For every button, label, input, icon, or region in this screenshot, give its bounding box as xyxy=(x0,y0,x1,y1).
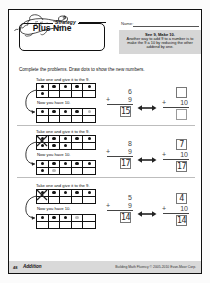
ten-frame-dot xyxy=(41,162,44,165)
ten-frame-cell[interactable] xyxy=(72,197,84,204)
left-second-addend: +9 xyxy=(105,202,135,210)
left-answer-box[interactable]: 15 xyxy=(120,106,131,117)
left-second-addend: +9 xyxy=(105,148,135,156)
ten-frame-cell[interactable] xyxy=(37,222,49,229)
ten-frame[interactable] xyxy=(36,160,96,175)
ten-frame-cell[interactable] xyxy=(60,91,72,98)
ten-frame-dot xyxy=(75,137,78,140)
ten-frame-dot xyxy=(52,144,55,147)
ten-frame-cell[interactable] xyxy=(83,222,95,229)
equation-bar xyxy=(163,159,189,160)
right-addend-value: 7 xyxy=(177,140,186,149)
ten-frame-dot xyxy=(64,216,67,219)
ten-frame-cell[interactable] xyxy=(49,143,61,150)
right-equation: +10 xyxy=(161,87,191,120)
ten-frame[interactable] xyxy=(36,214,96,229)
ten-frame-cell[interactable] xyxy=(49,222,61,229)
equation-bar xyxy=(163,213,189,214)
cross-out-mark xyxy=(36,189,48,201)
ten-frame-cell[interactable] xyxy=(83,168,95,175)
ten-frame-dot xyxy=(64,162,67,165)
left-equation: 6+915 xyxy=(105,88,135,117)
equation-bar xyxy=(107,104,133,105)
ten-frame-cell[interactable] xyxy=(72,222,84,229)
ten-frame-dot xyxy=(64,144,67,147)
left-equation: 8+917 xyxy=(105,140,135,169)
ten-frame-dot xyxy=(88,191,91,194)
ten-frame-dot xyxy=(52,169,55,172)
ten-frame-cell[interactable] xyxy=(83,116,95,123)
right-answer-box[interactable]: 17 xyxy=(176,161,187,172)
section-label: Addition xyxy=(23,264,42,269)
right-second-addend: +10 xyxy=(161,151,191,159)
plus-sign: + xyxy=(106,148,110,156)
ten-frame-cell[interactable] xyxy=(37,116,49,123)
ten-frame-cell[interactable] xyxy=(49,197,61,204)
page-number: 48 xyxy=(13,265,17,270)
ten-frame-dot xyxy=(41,85,44,88)
directions-text: Complete the problems. Draw dots to show… xyxy=(19,67,145,72)
ten-frame-cell[interactable] xyxy=(49,116,61,123)
left-answer-box[interactable]: 17 xyxy=(120,158,131,169)
ten-frame-cell[interactable] xyxy=(37,168,49,175)
right-equation: 4+1014 xyxy=(161,193,191,226)
equivalence-arrow-icon xyxy=(137,155,157,165)
ten-frame-cell[interactable] xyxy=(60,168,72,175)
left-equation: 5+914 xyxy=(105,194,135,223)
now-have-ten-label: Now you have 10. xyxy=(36,100,72,105)
equation-bar xyxy=(107,210,133,211)
take-one-label: Take one and give it to the 9. xyxy=(36,183,90,188)
row-divider xyxy=(17,177,195,178)
ten-frame-dot xyxy=(64,110,67,113)
right-answer-box[interactable]: 14 xyxy=(176,215,187,226)
ten-frame-cell[interactable] xyxy=(72,143,84,150)
ten-frame-dot xyxy=(75,191,78,194)
ten-frame-cell[interactable] xyxy=(60,197,72,204)
left-addend: 6 xyxy=(105,88,135,96)
right-addend-value: 4 xyxy=(177,194,186,203)
ten-frame-cell[interactable] xyxy=(72,168,84,175)
ten-frame-dot xyxy=(75,216,78,219)
tip-box: See 9, Make 10. Another way to add 9 to … xyxy=(119,30,201,54)
right-answer-value: 14 xyxy=(177,216,186,225)
tip-body: Another way to add 9 to a number is to m… xyxy=(122,37,198,50)
left-answer-value: 15 xyxy=(121,107,130,116)
right-addend-box[interactable] xyxy=(176,87,187,98)
publisher-credit: Building Math Fluency © 2005-2010 Evan-M… xyxy=(115,265,196,269)
equation-bar xyxy=(107,156,133,157)
ten-frame-dot xyxy=(52,85,55,88)
ten-frame-cell[interactable] xyxy=(60,116,72,123)
plus-sign: + xyxy=(106,96,110,104)
name-input-line[interactable] xyxy=(133,26,199,27)
ten-frame-dot xyxy=(64,137,67,140)
now-have-ten-label: Now you have 10. xyxy=(36,206,72,211)
ten-frame-dot xyxy=(64,191,67,194)
ten-frame-cell[interactable] xyxy=(83,197,95,204)
take-one-label: Take one and give it to the 9. xyxy=(36,77,90,82)
ten-frame-cell[interactable] xyxy=(60,222,72,229)
row-divider xyxy=(17,125,195,126)
equivalence-arrow-icon xyxy=(137,209,157,219)
right-answer-box[interactable] xyxy=(176,109,187,120)
ten-frame-dot xyxy=(41,169,44,172)
ten-frame-dot xyxy=(52,191,55,194)
ten-frame-dot xyxy=(88,85,91,88)
ten-frame-cell[interactable] xyxy=(49,91,61,98)
ten-frame-cell[interactable] xyxy=(49,168,61,175)
right-addend-box[interactable]: 7 xyxy=(176,139,187,150)
ten-frame-cell[interactable] xyxy=(72,91,84,98)
ten-frame[interactable] xyxy=(36,108,96,123)
ten-frame[interactable] xyxy=(36,83,96,98)
right-addend-value xyxy=(177,88,186,97)
right-addend-box[interactable]: 4 xyxy=(176,193,187,204)
left-answer-box[interactable]: 14 xyxy=(120,212,131,223)
name-label: Name: xyxy=(121,21,133,26)
plus-sign: + xyxy=(106,202,110,210)
ten-frame-cell[interactable] xyxy=(72,116,84,123)
left-addend: 8 xyxy=(105,140,135,148)
ten-frame-cell[interactable] xyxy=(60,143,72,150)
plus-sign: + xyxy=(162,99,166,107)
ten-frame-cell[interactable] xyxy=(83,91,95,98)
right-second-addend: +10 xyxy=(161,205,191,213)
ten-frame-cell[interactable] xyxy=(83,143,95,150)
